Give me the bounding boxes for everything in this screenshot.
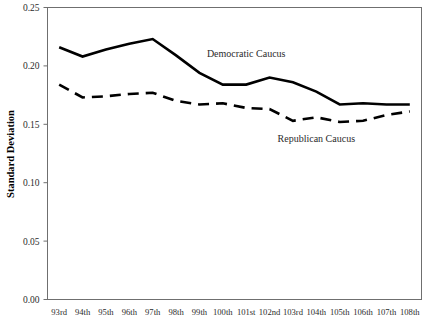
x-tick-label: 95th xyxy=(98,307,114,317)
x-tick-label: 97th xyxy=(145,307,161,317)
x-tick-label: 100th xyxy=(213,307,233,317)
y-axis-title: Standard Deviation xyxy=(5,110,16,198)
x-tick-label: 101st xyxy=(237,307,256,317)
y-tick-label: 0.15 xyxy=(23,120,40,130)
x-tick-label: 94th xyxy=(75,307,91,317)
x-tick-label: 108th xyxy=(400,307,420,317)
chart-container: 0.000.050.100.150.200.25 Standard Deviat… xyxy=(0,0,431,325)
x-tick-label: 107th xyxy=(377,307,397,317)
y-tick-label: 0.10 xyxy=(23,178,40,188)
x-tick-label: 98th xyxy=(168,307,184,317)
series-annotations-group: Democratic CaucusRepublican Caucus xyxy=(207,48,355,144)
x-tick-label: 96th xyxy=(122,307,138,317)
x-tick-label: 103rd xyxy=(283,307,304,317)
y-tick-label: 0.05 xyxy=(23,237,40,247)
y-tick-label: 0.20 xyxy=(23,61,40,71)
x-tick-label: 102nd xyxy=(259,307,281,317)
series-annotation-2: Republican Caucus xyxy=(278,133,356,144)
x-tick-label: 99th xyxy=(192,307,208,317)
x-tick-label: 93rd xyxy=(51,307,67,317)
x-tick-label: 106th xyxy=(353,307,373,317)
series-annotation-1: Democratic Caucus xyxy=(207,48,286,59)
x-tick-label: 104th xyxy=(307,307,327,317)
line-chart: 0.000.050.100.150.200.25 Standard Deviat… xyxy=(0,0,431,325)
x-axis-group: 93rd94th95th96th97th98th99th100th101st10… xyxy=(51,307,420,317)
x-tick-label: 105th xyxy=(330,307,350,317)
y-tick-label: 0.25 xyxy=(23,3,40,13)
y-axis-group: 0.000.050.100.150.200.25 Standard Deviat… xyxy=(5,3,48,305)
y-tick-label: 0.00 xyxy=(23,295,40,305)
